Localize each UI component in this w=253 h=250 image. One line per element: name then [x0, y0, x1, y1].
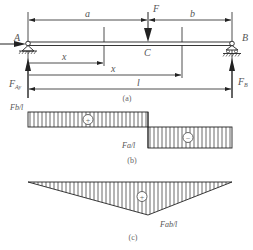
label-x1: x — [61, 51, 67, 62]
label-reaction-fay: FAy — [8, 78, 21, 90]
svg-text:+: + — [140, 193, 145, 202]
label-point-c: C — [144, 47, 151, 58]
label-fb-over-l: Fb/l — [9, 103, 24, 112]
panel-a-beam-loading: a b F C A — [0, 3, 248, 103]
label-support-a: A — [13, 32, 21, 43]
label-b: b — [190, 8, 195, 19]
label-fab-over-l: Fab/l — [159, 220, 178, 229]
label-force-f: F — [152, 3, 160, 14]
beam — [28, 42, 232, 46]
label-a: a — [85, 8, 90, 19]
svg-text:+: + — [86, 116, 91, 125]
panel-c-moment-diagram: + Fab/l (c) — [28, 182, 232, 242]
caption-b: (b) — [127, 156, 137, 165]
label-x2: x — [110, 63, 116, 74]
svg-text:−: − — [186, 134, 191, 143]
label-support-b: B — [242, 32, 248, 43]
force-arrow-icon — [144, 28, 152, 42]
label-reaction-fb: FB — [237, 76, 248, 88]
reaction-arrow-a-icon — [25, 58, 31, 71]
label-l: l — [137, 77, 140, 88]
panel-b-shear-diagram: + − Fb/l Fa/l (b) — [9, 103, 232, 165]
beam-diagram: a b F C A — [0, 0, 253, 250]
label-fa-over-l: Fa/l — [121, 141, 136, 150]
caption-c: (c) — [129, 233, 138, 242]
reaction-arrow-b-icon — [229, 58, 235, 71]
caption-a: (a) — [123, 94, 132, 103]
